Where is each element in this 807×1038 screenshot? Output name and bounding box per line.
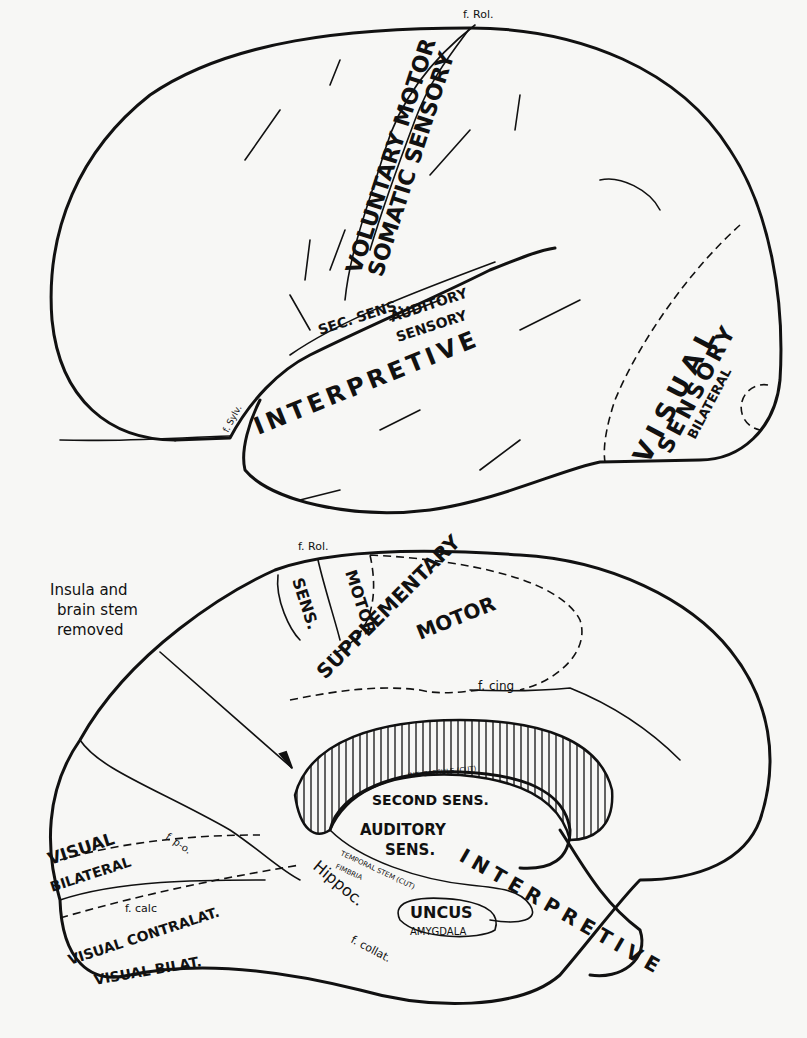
annotation-line-1: Insula and	[50, 581, 128, 599]
label-sens: SENS.	[288, 575, 323, 632]
label-medial-f-rol: f. Rol.	[298, 540, 329, 553]
lateral-view: f. Rol. f. Sylv. VOLUNTARY MOTOR SOMATIC…	[51, 8, 781, 513]
brain-diagram: f. Rol. f. Sylv. VOLUNTARY MOTOR SOMATIC…	[0, 0, 807, 1038]
label-medial-interpretive: INTERPRETIVE	[456, 844, 670, 981]
annotation-arrow	[160, 652, 292, 768]
label-f-cing: f. cing	[478, 679, 514, 693]
hatched-region	[295, 720, 612, 840]
annotation-line-3: removed	[57, 621, 123, 639]
label-f-collat: f. collat.	[349, 933, 394, 965]
label-second-sens: SECOND SENS.	[372, 792, 489, 808]
label-uncus: UNCUS	[410, 903, 473, 922]
label-f-po: f. p-o.	[164, 831, 194, 856]
label-supplementary-motor: MOTOR	[413, 591, 499, 644]
label-f-calc: f. calc	[125, 902, 157, 915]
label-medial-auditory-sens: SENS.	[385, 841, 435, 859]
label-f-rol: f. Rol.	[463, 8, 494, 21]
medial-view: f. Rol. SENS. MOTOR SUPPLEMENTARY MOTOR …	[45, 530, 770, 1004]
label-medial-auditory: AUDITORY	[360, 821, 447, 839]
annotation-line-2: brain stem	[57, 601, 138, 619]
label-visual-bilat: VISUAL BILAT.	[93, 953, 203, 988]
label-interpretive: INTERPRETIVE	[250, 324, 484, 440]
cingulate-fissure	[290, 688, 480, 700]
label-amygdala: AMYGDALA	[410, 926, 466, 937]
